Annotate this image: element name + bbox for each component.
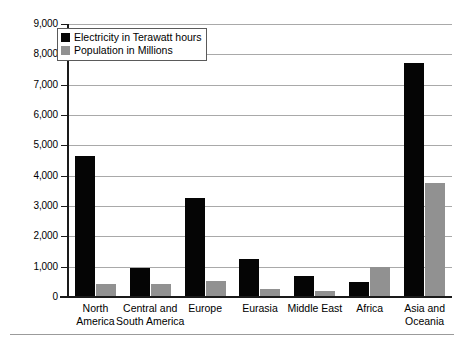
plot-area: [68, 24, 452, 297]
x-axis-line: [60, 296, 452, 298]
legend-label-population: Population in Millions: [74, 45, 173, 56]
bar-electricity: [294, 276, 314, 297]
y-axis-tick-label: 2,000: [10, 231, 58, 241]
bar-group: [68, 24, 123, 297]
bottom-divider: [10, 334, 454, 335]
bar-population: [425, 183, 445, 297]
y-axis-tick-label: 7,000: [10, 80, 58, 90]
bar-electricity: [75, 156, 95, 297]
y-axis-tick-label: 1,000: [10, 262, 58, 272]
y-axis-labels: 01,0002,0003,0004,0005,0006,0007,0008,00…: [6, 0, 58, 341]
y-axis-tick-label: 3,000: [10, 201, 58, 211]
legend-item-population: Population in Millions: [61, 44, 202, 57]
legend-swatch-icon-electricity: [61, 33, 70, 42]
bar-chart: 01,0002,0003,0004,0005,0006,0007,0008,00…: [0, 0, 464, 341]
bar-electricity: [239, 259, 259, 297]
legend-label-electricity: Electricity in Terawatt hours: [74, 32, 202, 43]
bar-electricity: [349, 282, 369, 297]
y-axis-tick-label: 6,000: [10, 110, 58, 120]
bar-group: [178, 24, 233, 297]
y-axis-tick-label: 8,000: [10, 49, 58, 59]
x-axis-category-labels: NorthAmericaCentral andSouth AmericaEuro…: [68, 302, 452, 338]
bar-population: [206, 281, 226, 297]
bar-population: [370, 267, 390, 297]
y-axis-line: [67, 24, 69, 298]
x-axis-label-line: Oceania: [389, 315, 460, 328]
legend-swatch-icon-population: [61, 46, 70, 55]
bar-electricity: [404, 63, 424, 297]
bar-electricity: [185, 198, 205, 297]
bar-population: [151, 284, 171, 297]
x-axis-label-line: Asia and: [389, 302, 460, 315]
bar-group: [397, 24, 452, 297]
bar-electricity: [130, 268, 150, 297]
y-axis-tick-label: 0: [10, 292, 58, 302]
bar-group: [287, 24, 342, 297]
chart-legend: Electricity in Terawatt hours Population…: [57, 28, 207, 61]
x-axis-category-label: Asia andOceania: [389, 302, 460, 327]
y-axis-tick-label: 4,000: [10, 171, 58, 181]
bar-group: [233, 24, 288, 297]
y-axis-tick-label: 5,000: [10, 140, 58, 150]
y-axis-tick-label: 9,000: [10, 19, 58, 29]
bar-group: [123, 24, 178, 297]
x-axis-label-line: South America: [115, 315, 186, 328]
legend-item-electricity: Electricity in Terawatt hours: [61, 31, 202, 44]
bar-group: [342, 24, 397, 297]
